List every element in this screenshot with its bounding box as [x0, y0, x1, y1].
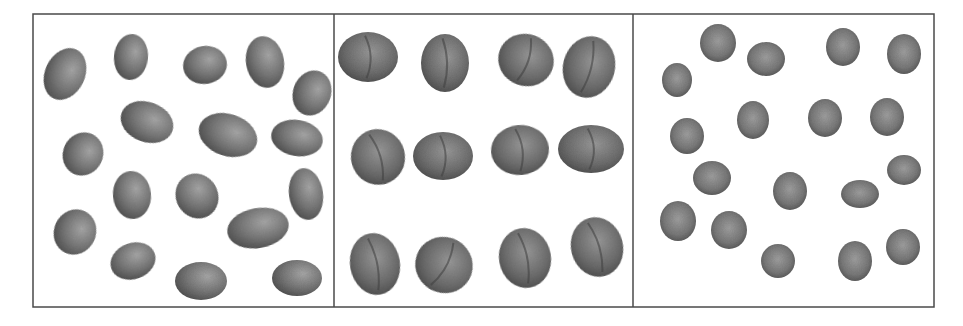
pea-item	[841, 180, 879, 208]
elongated-seed-item	[105, 236, 161, 286]
pea-item	[887, 34, 921, 74]
walnut-panel	[338, 26, 630, 304]
pea-item	[700, 24, 736, 62]
elongated-seed-item	[286, 166, 327, 222]
pea-item	[808, 99, 842, 137]
pea-item	[711, 211, 747, 249]
walnut-item	[564, 211, 630, 282]
elongated-seed-item	[111, 169, 153, 220]
figure-frame	[33, 14, 934, 307]
walnut-item	[558, 125, 624, 173]
pea-panel	[660, 24, 921, 281]
pea-item	[737, 101, 769, 139]
elongated-seed-item	[272, 260, 322, 296]
walnut-item	[345, 229, 405, 299]
elongated-seed-item	[46, 202, 104, 261]
elongated-seed-item	[167, 166, 226, 227]
pea-item	[887, 155, 921, 185]
walnut-item	[494, 224, 556, 292]
pea-item	[838, 241, 872, 281]
pea-item	[886, 229, 920, 265]
elongated-seed-item	[115, 94, 179, 150]
walnut-item	[421, 34, 469, 92]
pea-item	[670, 118, 704, 154]
walnut-item	[491, 26, 561, 94]
pea-item	[870, 98, 904, 136]
elongated-seed-item	[286, 65, 337, 121]
walnut-item	[413, 132, 473, 180]
walnut-item	[489, 123, 551, 178]
elongated-seed-item	[112, 33, 150, 82]
walnut-item	[345, 123, 412, 191]
pea-item	[660, 201, 696, 241]
elongated-seeds-panel	[35, 33, 337, 300]
elongated-seed-item	[242, 33, 288, 91]
elongated-seed-item	[175, 262, 227, 300]
pea-item	[761, 244, 795, 278]
elongated-seed-item	[35, 41, 94, 107]
elongated-seed-item	[180, 42, 230, 87]
seed-comparison-figure	[0, 0, 963, 326]
walnut-item	[556, 30, 622, 103]
pea-item	[747, 42, 785, 76]
elongated-seed-item	[268, 116, 325, 160]
pea-item	[662, 63, 692, 97]
elongated-seed-item	[224, 203, 292, 253]
pea-item	[693, 161, 731, 195]
pea-item	[773, 172, 807, 210]
pea-item	[826, 28, 860, 66]
walnut-item	[405, 226, 483, 303]
elongated-seed-item	[193, 106, 263, 164]
elongated-seed-item	[56, 126, 111, 183]
walnut-item	[338, 32, 398, 82]
